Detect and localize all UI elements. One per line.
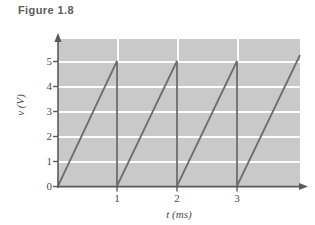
x-tick-label-1: 1 <box>107 193 127 204</box>
x-tick-label-group: 1 2 3 <box>0 193 315 209</box>
y-axis-label: v (V) <box>14 75 26 135</box>
y-tick-label-5: 5 <box>36 56 52 67</box>
y-tick-label-2: 2 <box>36 131 52 142</box>
x-axis-arrow <box>299 183 308 190</box>
y-tick-label-group: 5 4 3 2 1 0 <box>34 0 52 225</box>
figure-container: Figure 1.8 <box>0 0 315 225</box>
x-tick-label-2: 2 <box>167 193 187 204</box>
y-tick-label-3: 3 <box>36 106 52 117</box>
x-tick-label-3: 3 <box>227 193 247 204</box>
y-tick-label-0: 0 <box>36 181 52 192</box>
x-axis-label: t (ms) <box>58 208 300 220</box>
y-tick-label-1: 1 <box>36 156 52 167</box>
y-tick-label-4: 4 <box>36 81 52 92</box>
y-axis-arrow <box>54 33 61 42</box>
